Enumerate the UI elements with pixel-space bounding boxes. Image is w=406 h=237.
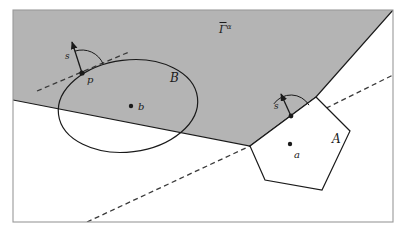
label-point-p: p	[87, 74, 94, 85]
point-a-dot	[288, 142, 292, 146]
diagram-svg: Γα B A b a p s s	[0, 0, 406, 237]
figure-canvas: Γα B A b a p s s	[0, 0, 406, 237]
label-point-a: a	[294, 149, 300, 160]
label-point-b: b	[138, 101, 144, 112]
alpha-superscript-glyph: α	[227, 23, 232, 31]
vector-s-right-basepoint-dot	[289, 114, 294, 119]
label-set-a: A	[331, 132, 341, 146]
label-vector-s-left: s	[65, 51, 70, 61]
point-p-dot	[79, 70, 84, 75]
label-set-b: B	[169, 71, 179, 85]
gamma-glyph: Γ	[218, 23, 227, 36]
label-vector-s-right: s	[274, 101, 279, 111]
point-b-dot	[129, 104, 133, 108]
